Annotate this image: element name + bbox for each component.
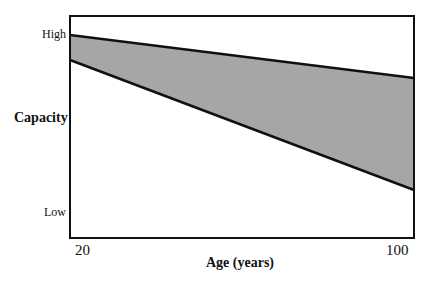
x-axis-title: Age (years): [206, 255, 274, 271]
y-axis-title: Capacity: [14, 110, 68, 126]
x-tick-100: 100: [386, 242, 409, 259]
chart-canvas: [0, 0, 430, 284]
y-tick-high: High: [42, 27, 66, 42]
capacity-range-band: [70, 35, 414, 190]
y-tick-low: Low: [44, 205, 66, 220]
x-tick-20: 20: [75, 242, 90, 259]
